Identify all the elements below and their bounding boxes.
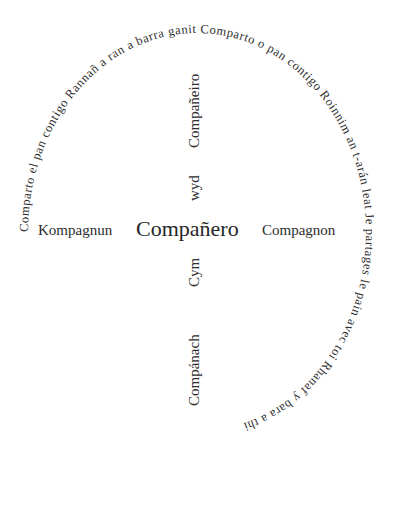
- word-wyd: wyd: [187, 175, 202, 201]
- compañero-diagram: Comparto el pan contigo Rannañ a ran a b…: [0, 0, 393, 530]
- word-compánach: Compánach: [187, 334, 202, 406]
- word-compañero-main: Compañero: [136, 218, 239, 240]
- word-cym: Cym: [187, 258, 202, 287]
- word-compañeiro: Compañeiro: [187, 74, 202, 148]
- word-kompagnun: Kompagnun: [38, 223, 112, 238]
- word-compagnon: Compagnon: [262, 223, 335, 238]
